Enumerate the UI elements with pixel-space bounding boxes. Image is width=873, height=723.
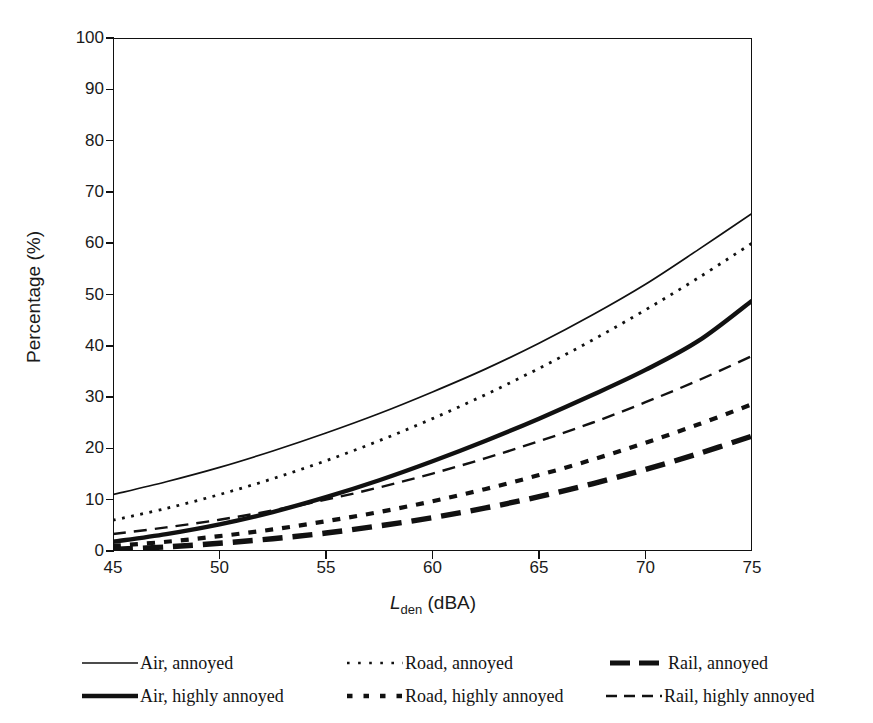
x-tick-label: 50 [190,558,250,578]
y-tick-label: 70 [46,182,104,202]
chart-legend: Air, annoyed Road, annoyed Rail, annoyed [82,648,872,714]
legend-label-road-annoyed: Road, annoyed [405,653,513,674]
x-tick-label: 60 [403,558,463,578]
curve-road_annoyed [113,243,752,520]
x-tick-mark [219,551,221,559]
x-axis-label-main: L [390,592,401,613]
x-axis-label-unit: (dBA) [427,592,476,613]
legend-sample-thin-dashed [606,689,662,703]
x-tick-mark [432,551,434,559]
y-tick-label: 60 [46,233,104,253]
legend-item-rail-annoyed: Rail, annoyed [610,648,768,678]
chart-curves [113,38,752,551]
legend-item-road-annoyed: Road, annoyed [347,648,513,678]
x-tick-label: 55 [296,558,356,578]
x-tick-mark [325,551,327,559]
x-tick-mark [538,551,540,559]
y-tick-label: 100 [46,28,104,48]
y-tick-label: 90 [46,79,104,99]
x-tick-label: 65 [509,558,569,578]
curve-air_annoyed [113,213,752,494]
x-tick-mark [645,551,647,559]
legend-label-air-highly-annoyed: Air, highly annoyed [140,686,284,707]
legend-label-road-highly-annoyed: Road, highly annoyed [405,686,563,707]
legend-sample-fine-dotted [347,656,403,670]
chart-figure: Percentage (%) Lden (dBA) 01020304050607… [0,0,873,723]
curve-rail_highly_annoyed [113,356,752,534]
y-tick-label: 40 [46,336,104,356]
legend-item-road-highly-annoyed: Road, highly annoyed [347,681,563,711]
legend-sample-thick-dashed [347,689,403,703]
x-axis-label: Lden (dBA) [113,592,753,617]
x-tick-label: 70 [616,558,676,578]
legend-item-air-highly-annoyed: Air, highly annoyed [82,681,284,711]
legend-row-bottom: Air, highly annoyed Road, highly annoyed… [82,681,872,711]
legend-sample-thick-solid [82,689,138,703]
legend-sample-thin-solid [82,656,138,670]
x-tick-label: 75 [722,558,782,578]
y-tick-label: 20 [46,438,104,458]
y-tick-label: 10 [46,490,104,510]
x-axis-label-sub: den [401,602,423,617]
legend-item-air-annoyed: Air, annoyed [82,648,233,678]
curve-air_highly_annoyed [113,301,752,542]
legend-label-rail-highly-annoyed: Rail, highly annoyed [664,686,814,707]
legend-sample-extra-thick-dashed [610,656,666,670]
legend-item-rail-highly-annoyed: Rail, highly annoyed [606,681,814,711]
y-tick-label: 30 [46,387,104,407]
legend-label-air-annoyed: Air, annoyed [140,653,233,674]
curve-rail_annoyed [113,436,752,549]
y-tick-label: 50 [46,285,104,305]
legend-row-top: Air, annoyed Road, annoyed Rail, annoyed [82,648,872,678]
y-tick-label: 80 [46,131,104,151]
y-axis-label: Percentage (%) [23,197,45,397]
x-tick-label: 45 [83,558,143,578]
legend-label-rail-annoyed: Rail, annoyed [668,653,768,674]
